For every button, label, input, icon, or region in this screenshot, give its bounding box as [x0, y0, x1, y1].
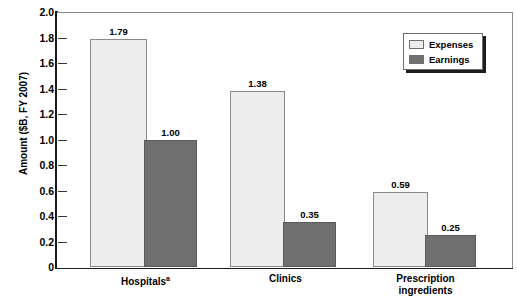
bar-hospitals-expenses	[90, 39, 147, 267]
y-tick-label: 0.2	[24, 237, 54, 247]
y-tick-label: 0.4	[24, 211, 54, 221]
legend-swatch-earnings	[409, 55, 424, 64]
bar-clinics-expenses	[230, 91, 285, 267]
legend-swatch-expenses	[409, 40, 424, 49]
y-tick-label: 0.6	[24, 186, 54, 196]
y-tick-label: 1.2	[24, 109, 54, 119]
bar-chart: Amount ($B, FY 2007) 2.01.81.61.41.21.00…	[0, 0, 517, 306]
x-axis-category-label: Hospitalsa	[78, 273, 213, 288]
y-tick-mark	[58, 89, 67, 90]
legend-item-earnings[interactable]: Earnings	[409, 52, 478, 67]
y-tick-label: 0	[24, 262, 54, 272]
y-tick-mark	[58, 140, 67, 141]
y-tick-label: 1.6	[24, 58, 54, 68]
y-tick-label: 2.0	[24, 7, 54, 17]
y-tick-label: 1.4	[24, 84, 54, 94]
legend-label-expenses: Expenses	[429, 40, 473, 50]
bar-value-label: 1.38	[230, 78, 285, 89]
bar-prescription-ingredients-earnings	[425, 235, 476, 267]
bar-prescription-ingredients-expenses	[373, 192, 428, 267]
legend-label-earnings: Earnings	[429, 55, 470, 65]
y-tick-mark	[58, 216, 67, 217]
bar-value-label: 0.59	[373, 179, 428, 190]
y-tick-mark	[58, 38, 67, 39]
y-tick-label: 0.8	[24, 160, 54, 170]
y-tick-mark	[58, 63, 67, 64]
y-tick-label: 1.8	[24, 33, 54, 43]
y-tick-mark	[58, 242, 67, 243]
bar-value-label: 0.35	[283, 209, 336, 220]
bar-value-label: 1.00	[144, 127, 197, 138]
bar-value-label: 0.25	[425, 222, 476, 233]
bar-value-label: 1.79	[90, 26, 147, 37]
y-axis-tick-labels: 2.01.81.61.41.21.00.80.60.40.20	[24, 0, 54, 306]
y-tick-mark	[58, 114, 67, 115]
y-tick-label: 1.0	[24, 135, 54, 145]
x-axis-category-label: Clinics	[223, 273, 348, 285]
legend-item-expenses[interactable]: Expenses	[409, 37, 478, 52]
x-axis-category-label: Prescriptioningredients	[358, 273, 493, 297]
chart-legend: Expenses Earnings	[403, 33, 483, 70]
bar-clinics-earnings	[283, 222, 336, 267]
y-tick-mark	[58, 191, 67, 192]
y-tick-mark	[58, 165, 67, 166]
bar-hospitals-earnings	[144, 140, 197, 268]
